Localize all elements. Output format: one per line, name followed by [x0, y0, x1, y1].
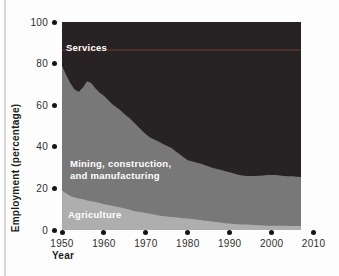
x-tick-dot: [227, 230, 232, 235]
x-tick-label: 1950: [44, 238, 80, 249]
x-axis-title: Year: [52, 250, 74, 261]
x-tick-label: 2000: [254, 238, 290, 249]
y-tick-dot: [52, 20, 57, 25]
y-tick-dot: [52, 144, 57, 149]
x-tick-dot: [311, 230, 316, 235]
x-tick-dot: [269, 230, 274, 235]
y-tick-dot: [52, 103, 57, 108]
x-tick-label: 1970: [128, 238, 164, 249]
y-tick-dot: [52, 228, 57, 233]
y-tick-label: 80: [16, 58, 48, 69]
page-edge-line: [4, 0, 6, 276]
x-tick-dot: [143, 230, 148, 235]
x-tick-dot: [185, 230, 190, 235]
employment-area-chart-figure: Employment (percentage) Services Mining,…: [0, 0, 339, 276]
x-tick-label: 1980: [170, 238, 206, 249]
y-tick-label: 60: [16, 100, 48, 111]
mining-area-label: Mining, construction, and manufacturing: [70, 158, 171, 182]
agriculture-area-label: Agriculture: [68, 209, 121, 221]
services-area-label: Services: [66, 42, 107, 54]
x-tick-label: 1960: [86, 238, 122, 249]
y-tick-label: 20: [16, 183, 48, 194]
x-tick-dot: [101, 230, 106, 235]
x-tick-dot: [60, 230, 65, 235]
x-tick-label: 1990: [212, 238, 248, 249]
y-tick-dot: [52, 186, 57, 191]
y-tick-label: 100: [16, 17, 48, 28]
mining-area-label-line1: Mining, construction,: [70, 158, 171, 170]
y-axis-title: Employment (percentage): [10, 104, 21, 233]
y-tick-label: 0: [16, 225, 48, 236]
mining-area-label-line2: and manufacturing: [70, 170, 171, 182]
x-tick-label: 2010: [296, 238, 332, 249]
y-tick-label: 40: [16, 141, 48, 152]
y-tick-dot: [52, 61, 57, 66]
